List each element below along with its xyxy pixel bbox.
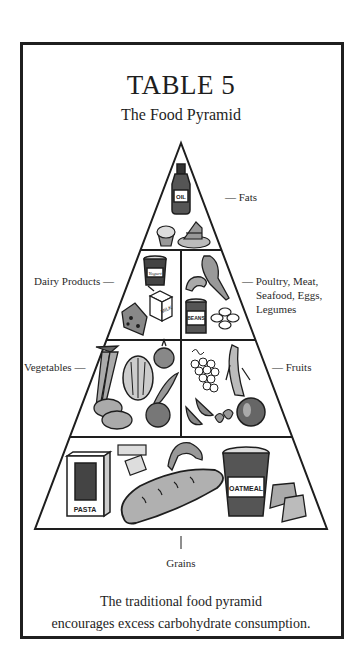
watermelon-icon (186, 399, 213, 425)
tomato-icon (146, 403, 170, 427)
label-fruits: — Fruits (272, 360, 311, 374)
cheese-icon (122, 303, 147, 335)
croissant-icon (168, 443, 202, 470)
potatoes-icon (94, 399, 132, 429)
label-protein-line-2: Seafood, Eggs, (256, 288, 322, 302)
svg-text:OATMEAL: OATMEAL (229, 485, 264, 492)
crackers-icon (118, 445, 146, 475)
svg-text:Yogurt: Yogurt (148, 271, 162, 276)
eggs-icon (211, 308, 239, 329)
label-dairy-products: Dairy Products — (34, 274, 114, 288)
label-vegetables: Vegetables — (24, 360, 85, 374)
muffin-icon (157, 226, 175, 246)
label-grains: Grains (0, 556, 362, 570)
lettuce-icon (123, 356, 153, 400)
banana-icon (226, 345, 250, 396)
svg-text:OIL: OIL (176, 194, 186, 200)
pea-pod-icon (154, 373, 178, 406)
caption: The traditional food pyramid encourages … (0, 591, 362, 635)
yogurt-icon: Yogurt (144, 256, 166, 285)
label-fats: — Fats (225, 190, 257, 204)
cake-slice-icon (178, 222, 210, 248)
onion-icon (154, 340, 174, 368)
apple-icon (237, 398, 265, 426)
milk-carton-icon: MILK (148, 286, 173, 321)
grapes-icon (191, 350, 219, 393)
bread-loaf-icon (122, 469, 223, 523)
oil-bottle-icon: OIL (172, 164, 190, 214)
shrimp-icon (186, 277, 206, 291)
caption-line-2: encourages excess carbohydrate consumpti… (0, 613, 362, 635)
chicken-leg-icon (202, 256, 229, 300)
label-protein-line-3: Legumes (256, 302, 296, 316)
carrots-icon (96, 346, 118, 407)
beans-can-icon: BEANS (186, 299, 206, 333)
toast-icon (270, 483, 306, 522)
label-protein-line-1: — Poultry, Meat, (242, 274, 318, 288)
pasta-box-icon: PASTA (67, 452, 110, 516)
svg-text:BEANS: BEANS (187, 315, 205, 321)
caption-line-1: The traditional food pyramid (0, 591, 362, 613)
oatmeal-tub-icon: OATMEAL (223, 447, 269, 516)
strawberries-icon (215, 410, 233, 423)
svg-text:PASTA: PASTA (74, 506, 97, 513)
